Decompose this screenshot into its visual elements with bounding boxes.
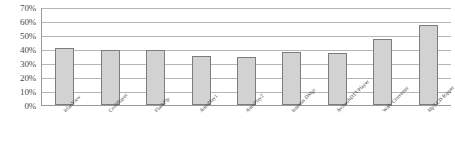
x-axis-tick: IrfanView (41, 107, 87, 161)
y-axis-tick-label: 10% (20, 87, 36, 97)
x-axis-tick: Internet DMgr (269, 107, 315, 161)
x-axis-tick: CoolPlayer (87, 107, 133, 161)
bar (55, 48, 74, 105)
y-axis-tick-label: 40% (20, 45, 36, 55)
bar-slot (133, 8, 178, 105)
bar (328, 53, 347, 105)
bar-series (42, 8, 451, 105)
x-axis: IrfanViewCoolPlayerFlashPlpAutoPlay1Auto… (41, 107, 451, 161)
x-axis-tick: AutoPlay1 (178, 107, 224, 161)
y-axis: 70%60%50%40%30%20%10%0% (0, 8, 40, 106)
bar-slot (42, 8, 87, 105)
y-axis-tick-label: 70% (20, 3, 36, 13)
y-axis-tick-label: 50% (20, 31, 36, 41)
bar-slot (224, 8, 269, 105)
x-axis-tick: WAV Converter (360, 107, 406, 161)
bar (373, 39, 392, 105)
bar (419, 25, 438, 105)
x-axis-tick: FlashPlp (132, 107, 178, 161)
y-axis-tick-label: 30% (20, 59, 36, 69)
bar (237, 57, 256, 105)
y-axis-tick-label: 0% (24, 101, 36, 111)
bar-slot (178, 8, 223, 105)
x-axis-tick: AutoPlay2 (223, 107, 269, 161)
bar (282, 52, 301, 105)
plot-area (41, 8, 451, 106)
bar (146, 50, 165, 105)
y-axis-tick-label: 20% (20, 73, 36, 83)
x-axis-tick: AviosoftDTVPlayer (314, 107, 360, 161)
bar-slot (87, 8, 132, 105)
x-axis-tick: Mp3 CD Ripper (406, 107, 452, 161)
y-axis-tick-label: 60% (20, 17, 36, 27)
bar (101, 50, 120, 105)
